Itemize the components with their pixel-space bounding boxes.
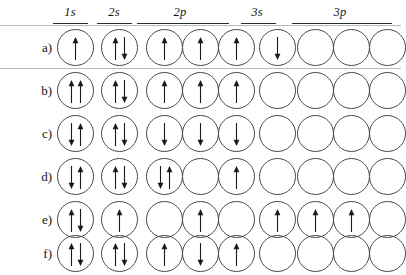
electron-arrow-down [76,243,85,266]
orbital-3p-2-row-f[interactable] [333,235,370,272]
electron-arrows [58,159,93,194]
electron-arrows [370,159,405,194]
electron-arrows [219,73,254,108]
electron-arrows [298,30,333,65]
electron-arrow-down [156,166,165,189]
electron-arrow-down [120,123,129,146]
orbital-2s-row-c[interactable] [101,115,138,152]
electron-arrows [183,73,218,108]
electron-arrows [298,116,333,151]
electron-arrows [102,236,137,271]
electron-arrows [147,116,182,151]
electron-arrows [147,30,182,65]
orbital-2p-2-row-f[interactable] [182,235,219,272]
electron-arrows [219,116,254,151]
orbital-3p-3-row-f[interactable] [369,235,406,272]
orbital-2p-3-row-a[interactable] [218,29,255,66]
column-header-3p: 3p [290,6,390,19]
electron-arrows [147,73,182,108]
electron-arrows [147,159,182,194]
orbital-2p-3-row-f[interactable] [218,235,255,272]
orbital-3s-row-a[interactable] [259,29,296,66]
electron-arrow-down [160,123,169,146]
orbital-3s-row-b[interactable] [259,72,296,109]
orbital-3p-1-row-d[interactable] [297,158,334,195]
electron-arrow-down [120,37,129,60]
orbital-1s-row-c[interactable] [57,115,94,152]
electron-arrow-down [67,123,76,146]
orbital-2p-1-row-c[interactable] [146,115,183,152]
orbital-1s-row-d[interactable] [57,158,94,195]
electron-arrows [183,30,218,65]
orbital-2p-2-row-a[interactable] [182,29,219,66]
electron-arrows [334,73,369,108]
electron-arrows [370,30,405,65]
orbital-2p-1-row-b[interactable] [146,72,183,109]
orbital-2s-row-d[interactable] [101,158,138,195]
electron-arrow-down [120,166,129,189]
orbital-3p-3-row-b[interactable] [369,72,406,109]
orbital-row-f: f) [0,232,401,275]
electron-arrow-up [67,209,76,232]
orbital-3p-3-row-a[interactable] [369,29,406,66]
orbital-3p-1-row-f[interactable] [297,235,334,272]
electron-arrow-up [76,123,85,146]
electron-arrows [370,116,405,151]
column-rule-1s [53,23,88,24]
orbital-2p-1-row-d[interactable] [146,158,183,195]
orbital-2p-2-row-d[interactable] [182,158,219,195]
row-label-d: d) [30,155,52,198]
electron-arrow-down [196,123,205,146]
electron-arrows [260,73,295,108]
electron-arrow-up [196,37,205,60]
orbital-2p-3-row-d[interactable] [218,158,255,195]
orbital-3p-3-row-d[interactable] [369,158,406,195]
orbital-1s-row-f[interactable] [57,235,94,272]
orbital-3p-2-row-b[interactable] [333,72,370,109]
orbital-2s-row-a[interactable] [101,29,138,66]
orbital-3p-1-row-b[interactable] [297,72,334,109]
electron-arrows [298,159,333,194]
orbital-1s-row-a[interactable] [57,29,94,66]
electron-arrows [183,159,218,194]
electron-arrows [183,116,218,151]
electron-arrows [183,236,218,271]
orbital-2p-2-row-b[interactable] [182,72,219,109]
orbital-3p-1-row-c[interactable] [297,115,334,152]
orbital-row-b: b) [0,69,401,112]
orbital-3s-row-d[interactable] [259,158,296,195]
electron-arrow-up [347,209,356,232]
electron-arrows [260,116,295,151]
orbital-1s-row-b[interactable] [57,72,94,109]
orbital-3p-1-row-a[interactable] [297,29,334,66]
electron-arrow-down [76,209,85,232]
orbital-3p-2-row-a[interactable] [333,29,370,66]
electron-arrow-up [115,209,124,232]
orbital-row-a: a) [0,26,401,69]
electron-arrow-down [196,243,205,266]
orbital-3s-row-c[interactable] [259,115,296,152]
electron-arrows [219,159,254,194]
orbital-3p-2-row-c[interactable] [333,115,370,152]
electron-arrow-down [120,80,129,103]
orbital-3p-2-row-d[interactable] [333,158,370,195]
electron-arrow-up [160,80,169,103]
orbital-3p-3-row-c[interactable] [369,115,406,152]
orbital-2p-1-row-f[interactable] [146,235,183,272]
electron-arrows [334,236,369,271]
orbital-3s-row-f[interactable] [259,235,296,272]
orbital-2p-3-row-c[interactable] [218,115,255,152]
orbital-2p-2-row-c[interactable] [182,115,219,152]
orbital-2p-1-row-a[interactable] [146,29,183,66]
electron-arrow-down [67,166,76,189]
column-rule-3p [292,23,392,24]
orbital-2p-3-row-b[interactable] [218,72,255,109]
electron-arrow-down [232,123,241,146]
column-rule-2s [97,23,132,24]
electron-arrow-down [120,243,129,266]
electron-arrow-up [111,166,120,189]
orbital-2s-row-f[interactable] [101,235,138,272]
orbital-2s-row-b[interactable] [101,72,138,109]
electron-arrow-up [160,243,169,266]
electron-arrows [102,159,137,194]
